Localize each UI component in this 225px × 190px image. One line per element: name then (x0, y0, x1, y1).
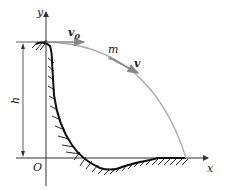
trajectory-curve (46, 42, 186, 158)
origin-label: O (33, 161, 42, 174)
height-label: h (9, 97, 22, 104)
velocity-label: v (134, 57, 141, 70)
y-axis-label: y (36, 6, 44, 19)
height-arrow-up-icon (21, 43, 25, 49)
cliff-terrain (36, 42, 186, 169)
x-axis-label: x (207, 162, 214, 175)
projectile-diagram: y x O h m v0 v (0, 0, 225, 190)
height-arrow-down-icon (21, 151, 25, 157)
mass-label: m (108, 43, 118, 56)
v0-label: v0 (68, 26, 80, 41)
